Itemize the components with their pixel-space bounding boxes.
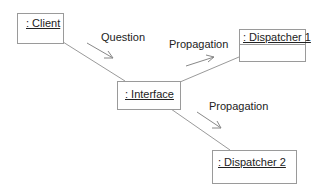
message-arrow-icon (186, 55, 214, 66)
object-label: : Interface (125, 88, 174, 100)
object-dispatcher-2[interactable]: : Dispatcher 2 (212, 150, 297, 184)
object-dispatcher-1[interactable]: : Dispatcher 1 (239, 29, 306, 62)
link-client-interface (63, 42, 125, 81)
object-client[interactable]: : Client (17, 13, 64, 44)
message-label-propagation-2: Propagation (209, 100, 268, 112)
message-label-propagation-1: Propagation (169, 38, 228, 50)
message-label-question: Question (101, 31, 145, 43)
object-label: : Client (26, 17, 60, 29)
object-label: : Dispatcher 2 (218, 156, 286, 168)
link-interface-dispatcher2 (171, 109, 230, 150)
object-interface[interactable]: : Interface (117, 81, 181, 110)
compartment-divider (240, 44, 305, 45)
message-arrow-icon (87, 43, 113, 58)
message-arrow-icon (197, 112, 221, 128)
object-label: : Dispatcher 1 (243, 31, 311, 43)
